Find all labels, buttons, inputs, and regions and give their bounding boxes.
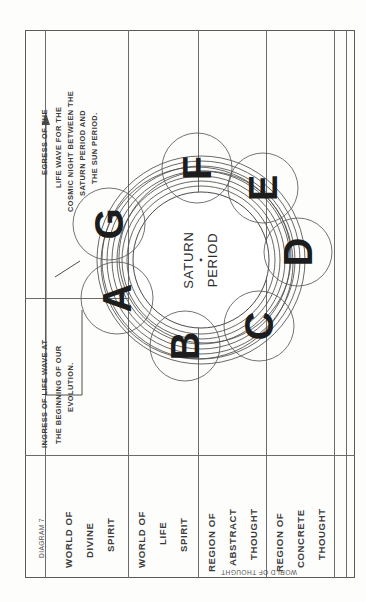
legend-region-of-abstract-thought-line2: ABSTRACT	[227, 508, 238, 566]
diagram-number-label: DIAGRAM 7	[38, 518, 45, 558]
legend-region-of-concrete-thought-line2: CONCRETE	[295, 509, 306, 568]
ingress-line-1: INGRESS OF LIFE WAVE AT	[40, 340, 49, 448]
globe-letter-F: F	[175, 156, 219, 180]
ingress-line-3: EVOLUTION.	[66, 362, 75, 412]
legend-world-of-divine-spirit-line1: WORLD OF	[63, 511, 74, 568]
ingress-line-2: THE BEGINNING OF OUR	[54, 345, 63, 444]
legend-region-of-abstract-thought-line3: THOUGHT	[248, 508, 259, 560]
legend-world-of-thought-bracket: WORLD OF THOUGHT	[221, 569, 297, 576]
egress-line-2: LIFE WAVE FOR THE	[54, 107, 63, 188]
legend-region-of-abstract-thought-line1: REGION OF	[206, 513, 217, 572]
legend-world-of-divine-spirit-line3: SPIRIT	[105, 517, 116, 552]
legend-world-of-life-spirit-line2: LIFE	[157, 522, 168, 545]
legend-world-of-life-spirit-line1: WORLD OF	[136, 511, 147, 568]
egress-line-1: EGRESS OF THE	[40, 109, 49, 175]
center-label-line1: SATURN	[181, 231, 196, 288]
egress-line-5: THE SUN PERIOD.	[90, 112, 99, 184]
globe-letter-D: D	[276, 238, 320, 267]
legend-region-of-concrete-thought-line3: THOUGHT	[316, 508, 327, 560]
legend-world-of-divine-spirit-line2: DIVINE	[84, 522, 95, 558]
rule-col-6	[346, 30, 347, 578]
legend-region-of-concrete-thought-line1: REGION OF	[274, 513, 285, 572]
egress-line-4: SATURN PERIOD AND	[78, 110, 87, 196]
globe-letter-E: E	[241, 175, 285, 202]
legend-world-of-life-spirit-line3: SPIRIT	[178, 517, 189, 552]
egress-line-3: COSMIC NIGHT BETWEEN THE	[66, 91, 75, 212]
globe-letter-C: C	[237, 312, 281, 341]
globe-letter-B: B	[163, 332, 207, 361]
center-label-line2: PERIOD	[205, 233, 220, 288]
diagram-plate: SATURN PERIOD F E D C B A G EGRESS OF TH…	[0, 0, 366, 602]
